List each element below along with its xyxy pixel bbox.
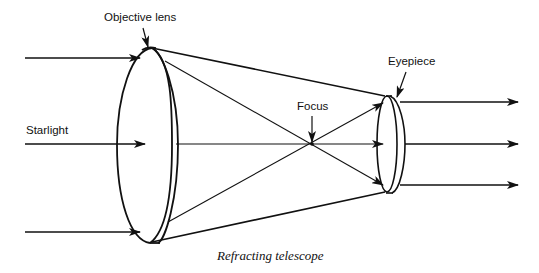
outgoing-rays: [400, 102, 518, 185]
converging-rays: [165, 61, 383, 222]
focus-label: Focus: [297, 100, 328, 112]
eyepiece-pointer: [397, 72, 406, 97]
telescope-tube: [152, 48, 385, 242]
starlight-label: Starlight: [26, 124, 68, 136]
diagram-drawing: [0, 0, 539, 273]
eyepiece-label: Eyepiece: [388, 55, 435, 67]
refracting-telescope-diagram: Objective lens Eyepiece Focus Starlight …: [0, 0, 539, 273]
incoming-rays: [25, 58, 145, 232]
diagram-caption: Refracting telescope: [217, 248, 324, 264]
objective-pointer: [143, 28, 148, 47]
objective-lens-label: Objective lens: [104, 11, 176, 23]
label-pointers: [143, 28, 406, 142]
focus-point: [310, 142, 314, 146]
objective-lens: [117, 47, 178, 243]
